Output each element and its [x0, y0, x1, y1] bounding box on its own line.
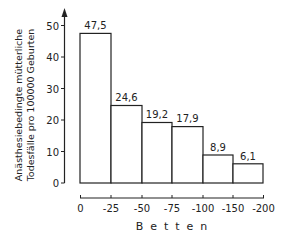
bar-value-label: 8,9 [210, 142, 226, 153]
bar [203, 155, 233, 183]
y-tick-label: 0 [53, 178, 59, 189]
y-ticks: 0 10 20 30 40 50 [46, 21, 64, 190]
y-tick-label: 30 [46, 84, 59, 95]
y-axis-label: Anästhesiebedingte mütterliche Todesfäll… [13, 29, 36, 183]
x-tick-labels: 0 -25 -50 -75 -100 -150 -200 [77, 203, 275, 214]
svg-text:Anästhesiebedingte mütterliche: Anästhesiebedingte mütterliche [13, 29, 24, 181]
x-tick-label: -150 [222, 203, 245, 214]
y-tick-label: 20 [46, 115, 59, 126]
y-tick-label: 50 [46, 21, 59, 32]
bar-value-label: 6,1 [240, 151, 256, 162]
x-tick-label: -100 [192, 203, 215, 214]
y-tick-label: 40 [46, 52, 59, 63]
x-tick-label: -25 [103, 203, 119, 214]
histogram-chart: 0 10 20 30 40 50 Anästhesiebedingte mütt… [0, 0, 284, 240]
bar-value-label: 24,6 [115, 92, 137, 103]
x-tick-label: -200 [252, 203, 275, 214]
bar [172, 127, 203, 183]
svg-text:Todesfälle pro 100000 Geburten: Todesfälle pro 100000 Geburten [25, 29, 36, 183]
bar-value-label: 19,2 [146, 109, 168, 120]
bar [80, 33, 111, 183]
bar [233, 164, 263, 183]
bar [111, 106, 142, 184]
x-tick-label: -50 [134, 203, 150, 214]
bar [142, 123, 172, 184]
bar-value-label: 47,5 [84, 20, 106, 31]
y-axis-arrow-icon [62, 8, 68, 17]
x-axis-label: Betten [136, 220, 215, 233]
y-tick-label: 10 [46, 147, 59, 158]
bar-value-label: 17,9 [176, 113, 198, 124]
x-tick-label: 0 [77, 203, 83, 214]
x-tick-label: -75 [164, 203, 180, 214]
bars [80, 33, 263, 183]
